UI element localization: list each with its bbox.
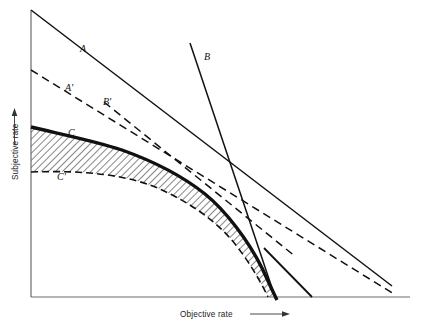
y-axis-label-group: Subjective rate: [11, 108, 20, 180]
chart-figure: A A' B B' C C' Subjective rate Objective…: [0, 0, 429, 326]
y-axis-arrow-head: [12, 108, 18, 116]
curve-label-c-prime: C': [57, 171, 67, 182]
x-axis-arrow-head: [282, 311, 290, 317]
x-axis-label: Objective rate: [180, 310, 233, 319]
series-line-a-prime: [31, 70, 394, 294]
curve-label-a: A: [79, 43, 87, 54]
chart-canvas: A A' B B' C C' Subjective rate Objective…: [0, 0, 429, 326]
curve-label-a-prime: A': [64, 82, 74, 93]
x-axis-label-group: Objective rate: [180, 310, 290, 319]
y-axis-label: Subjective rate: [11, 123, 20, 180]
curve-label-b: B: [204, 51, 210, 62]
curve-label-c: C: [68, 127, 75, 138]
series-line-b: [190, 43, 276, 300]
curve-label-b-prime: B': [103, 96, 112, 107]
